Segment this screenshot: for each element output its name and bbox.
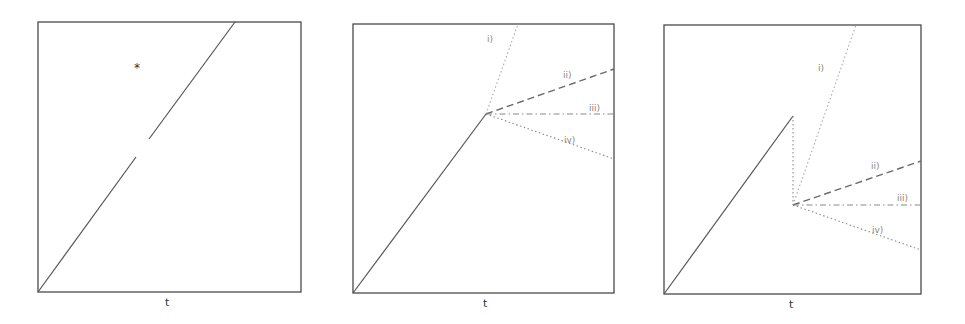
panel-2-frame <box>353 24 614 293</box>
panel-3-xlabel: t <box>789 298 794 311</box>
panel-3-branch-i <box>793 25 856 205</box>
panel-1-star-marker: * <box>134 61 140 75</box>
panel-2-label-iii: iii) <box>589 103 600 113</box>
panel-2: i) ii) iii) iv) t <box>353 24 614 310</box>
panel-2-label-i: i) <box>487 34 493 44</box>
panel-3-frame <box>664 25 921 294</box>
panel-1-xlabel: t <box>165 296 170 309</box>
panel-1-frame <box>38 22 301 292</box>
panel-3-label-iii: iii) <box>897 193 908 203</box>
panel-2-label-iv: iv) <box>564 135 575 145</box>
panel-3-trajectory <box>664 116 793 294</box>
panel-3-branch-iv <box>793 205 921 250</box>
panel-1: * t <box>38 22 301 309</box>
panel-2-label-ii: ii) <box>563 70 572 80</box>
panel-1-trajectory-lower <box>38 157 136 292</box>
panel-3-label-ii: ii) <box>871 161 880 171</box>
panel-3-label-iv: iv) <box>872 225 883 235</box>
panel-3: i) ii) iii) iv) t <box>664 25 921 311</box>
panel-2-trajectory <box>353 114 486 293</box>
panel-2-branch-iv <box>486 114 614 159</box>
panel-1-trajectory-upper <box>149 22 235 139</box>
figure: * t i) ii) iii) iv) t <box>0 0 965 324</box>
panel-3-label-i: i) <box>818 63 824 73</box>
panel-2-xlabel: t <box>483 297 488 310</box>
